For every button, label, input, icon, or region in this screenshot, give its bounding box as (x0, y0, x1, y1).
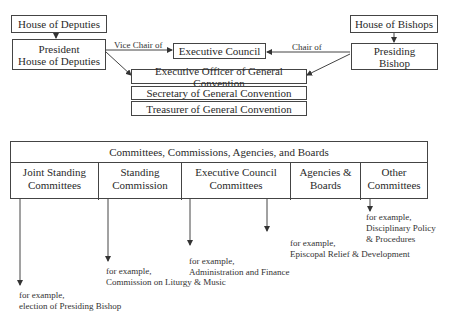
example-line: for example, (366, 212, 411, 222)
arrow-pb-eo (307, 54, 350, 75)
example-line: for example, (189, 256, 234, 266)
committees-table: Committees, Commissions, Agencies, and B… (10, 141, 428, 199)
example-line: Administration and Finance (189, 267, 289, 277)
chair-label: Chair of (292, 42, 322, 52)
presiding-label: Presiding (374, 45, 416, 57)
cell-label: Other (381, 166, 406, 178)
cell-executive-council-committees: Executive CouncilCommittees (182, 163, 291, 200)
example-line: for example, (19, 290, 64, 300)
example-line: for example, (290, 238, 335, 248)
cell-label: Executive Council (195, 166, 277, 178)
example-executive-council: for example, Administration and Finance (189, 256, 289, 278)
example-line: Episcopal Relief & Development (290, 249, 410, 259)
house-of-bishops-label: House of Bishops (355, 18, 433, 30)
vice-chair-label: Vice Chair of (114, 40, 162, 50)
example-line: for example, (106, 266, 151, 276)
executive-council-box: Executive Council (173, 43, 266, 59)
table-header: Committees, Commissions, Agencies, and B… (11, 142, 427, 163)
example-line: & Procedures (366, 234, 415, 244)
cell-joint-standing: Joint StandingCommittees (11, 163, 99, 200)
house-of-deputies-label: House of Deputies (18, 18, 100, 30)
cell-label: Standing (120, 166, 159, 178)
cell-label: Committees (28, 179, 81, 191)
example-joint-standing: for example, election of Presiding Bisho… (19, 290, 121, 312)
house-of-deputies-box: House of Deputies (11, 15, 107, 33)
cell-label: Committees (367, 179, 420, 191)
cell-standing-commission: StandingCommission (99, 163, 182, 200)
executive-officer-box: Executive Officer of General Convention (131, 69, 307, 84)
president-label: President (39, 43, 80, 55)
arrow-president-eo (106, 52, 131, 75)
cell-label: Boards (310, 179, 341, 191)
treasurer-box: Treasurer of General Convention (131, 101, 307, 116)
example-line: Disciplinary Policy (366, 223, 436, 233)
example-line: Commission on Liturgy & Music (106, 277, 226, 287)
cell-other-committees: OtherCommittees (361, 163, 427, 200)
table-columns-row: Joint StandingCommittees StandingCommiss… (11, 163, 427, 200)
secretary-label: Secretary of General Convention (146, 87, 291, 99)
cell-label: Agencies & (299, 166, 351, 178)
example-other-committees: for example, Disciplinary Policy & Proce… (366, 212, 436, 245)
executive-council-label: Executive Council (179, 45, 261, 57)
cell-label: Joint Standing (23, 166, 86, 178)
president-hod-box: President House of Deputies (12, 39, 106, 70)
example-line: election of Presiding Bishop (19, 301, 121, 311)
cell-label: Commission (112, 179, 168, 191)
cell-agencies-boards: Agencies &Boards (291, 163, 361, 200)
bishop-label: Bishop (379, 57, 410, 69)
treasurer-label: Treasurer of General Convention (146, 103, 291, 115)
president-hod-label: House of Deputies (18, 55, 100, 67)
presiding-bishop-box: Presiding Bishop (351, 43, 438, 70)
house-of-bishops-box: House of Bishops (350, 15, 438, 33)
executive-officer-label: Executive Officer of General Convention (132, 65, 306, 89)
secretary-box: Secretary of General Convention (131, 86, 307, 100)
cell-label: Committees (209, 179, 262, 191)
